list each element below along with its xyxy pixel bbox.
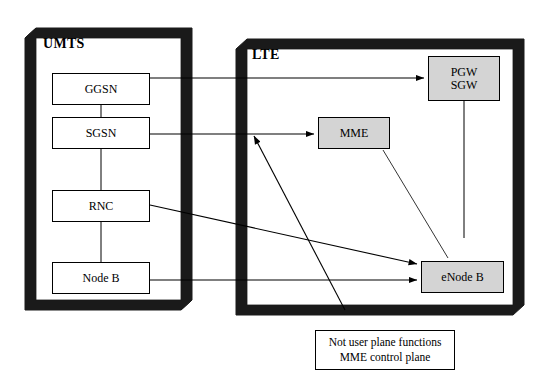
- note-line-2: MME control plane: [340, 350, 431, 365]
- node-pgw-sgw[interactable]: PGW SGW: [428, 56, 500, 101]
- node-node-b[interactable]: Node B: [52, 262, 150, 294]
- node-ggsn-label: GGSN: [85, 83, 118, 96]
- domain-title-lte: LTE: [252, 47, 280, 63]
- note-line-1: Not user plane functions: [329, 335, 442, 350]
- node-rnc-label: RNC: [89, 200, 114, 213]
- note-box: Not user plane functions MME control pla…: [315, 330, 455, 370]
- node-pgw-label: PGW: [451, 66, 478, 79]
- node-rnc[interactable]: RNC: [52, 190, 150, 222]
- diagram-canvas: PGW/SGW (horizontal) --> MME (horizontal…: [0, 0, 551, 392]
- node-sgw-label: SGW: [451, 79, 478, 92]
- node-ggsn[interactable]: GGSN: [52, 73, 150, 105]
- node-sgsn[interactable]: SGSN: [52, 117, 150, 149]
- node-enode-b[interactable]: eNode B: [421, 261, 504, 293]
- node-mme[interactable]: MME: [318, 117, 390, 149]
- node-mme-label: MME: [340, 127, 369, 140]
- node-enode-b-label: eNode B: [441, 271, 483, 284]
- node-sgsn-label: SGSN: [86, 127, 117, 140]
- node-node-b-label: Node B: [83, 272, 120, 285]
- domain-title-umts: UMTS: [43, 36, 85, 52]
